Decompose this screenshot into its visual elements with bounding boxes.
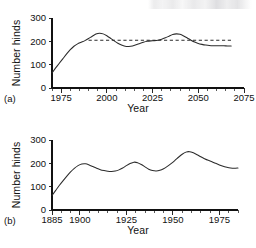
x-tick-label: 2075 [233,92,254,103]
x-tick-label: 1900 [69,214,90,225]
y-tick-label: 200 [30,158,46,169]
chart-panel-b: 010020030018851900192519501975Number hin… [0,122,256,248]
panel-label: (b) [4,215,16,226]
y-axis-title: Number hinds [10,142,22,209]
x-tick-label: 1950 [162,214,183,225]
x-tick-label: 1975 [209,214,230,225]
x-tick-label: 2000 [96,92,117,103]
y-tick-label: 100 [30,59,46,70]
y-tick-label: 200 [30,36,46,47]
y-axis-title: Number hinds [10,20,22,87]
y-tick-label: 100 [30,181,46,192]
data-series-line [52,33,231,73]
panel-label: (a) [4,93,16,104]
figure-container: 010020030019752000202520502075Number hin… [0,0,256,248]
x-axis-title: Year [127,102,149,114]
x-axis-title: Year [127,224,149,236]
y-tick-label: 300 [30,12,46,23]
x-tick-label: 2050 [188,92,209,103]
y-tick-label: 0 [41,82,46,93]
y-tick-label: 300 [30,134,46,145]
chart-a-svg: 010020030019752000202520502075Number hin… [0,0,256,124]
chart-panel-a: 010020030019752000202520502075Number hin… [0,0,256,124]
data-series-line [52,152,238,196]
x-tick-label: 1975 [51,92,72,103]
x-tick-label: 1885 [41,214,62,225]
chart-b-svg: 010020030018851900192519501975Number hin… [0,122,256,248]
